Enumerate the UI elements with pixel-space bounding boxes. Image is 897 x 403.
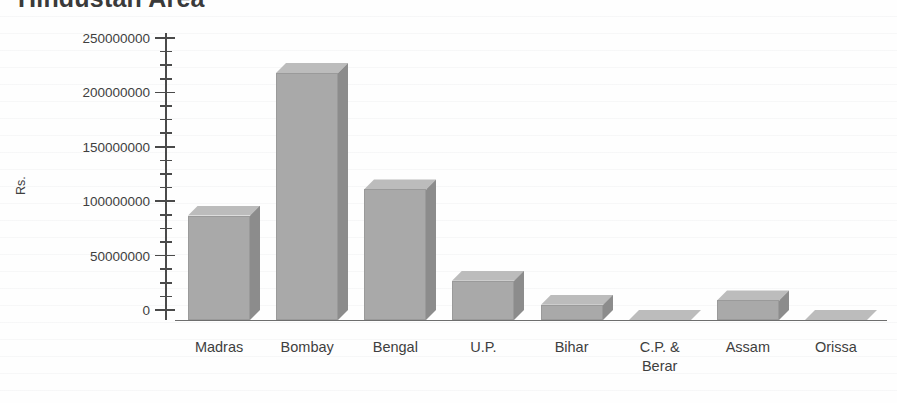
bar-top-face (188, 206, 260, 216)
bar-side-face (338, 63, 348, 320)
bar-top-face (364, 179, 436, 189)
x-axis-tick-label: U.P. (439, 338, 527, 357)
bar-top-face (805, 310, 877, 320)
x-axis-tick-label: Madras (175, 338, 263, 357)
bar-side-face (426, 179, 436, 320)
bar-bombay (276, 63, 348, 320)
bar-bihar (541, 295, 613, 320)
bar-u-p (452, 271, 524, 320)
bar-top-face (717, 290, 789, 300)
bar-top-face (629, 310, 701, 320)
bar-series: MadrasBombayBengalU.P.BiharC.P. & BerarA… (0, 0, 897, 403)
x-axis-tick-label: Bombay (263, 338, 351, 357)
bar-top-face (452, 271, 524, 281)
bar-front-face (276, 73, 338, 320)
x-axis-tick-label: Orissa (792, 338, 880, 357)
x-axis-tick-label: Assam (704, 338, 792, 357)
bar-front-face (452, 281, 514, 320)
x-axis-tick-label: C.P. & Berar (616, 338, 704, 376)
bar-front-face (364, 189, 426, 320)
x-axis-tick-label: Bengal (351, 338, 439, 357)
chart-page: Hindustan Area Rs. 050000000100000000150… (0, 0, 897, 403)
bar-c-p-berar (629, 310, 701, 320)
bar-bengal (364, 179, 436, 320)
bar-side-face (250, 206, 260, 320)
bar-orissa (805, 310, 877, 320)
bar-top-face (276, 63, 348, 73)
bar-assam (717, 290, 789, 320)
bar-front-face (717, 300, 779, 320)
bar-top-face (541, 295, 613, 305)
bar-madras (188, 206, 260, 320)
x-axis-tick-label: Bihar (528, 338, 616, 357)
bar-front-face (188, 216, 250, 320)
bar-front-face (541, 305, 603, 320)
